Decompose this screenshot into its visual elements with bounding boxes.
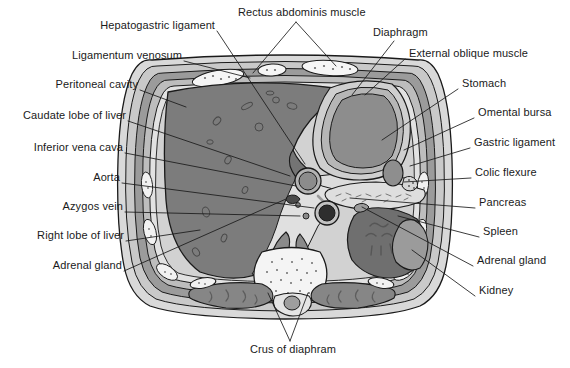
label-stomach: Stomach — [462, 77, 506, 89]
label-pancreas: Pancreas — [479, 196, 526, 208]
kidney — [392, 220, 428, 270]
label-peritoneal-cavity: Peritoneal cavity — [0, 78, 138, 90]
label-spleen: Spleen — [483, 225, 518, 237]
label-external-oblique-muscle: External oblique muscle — [409, 47, 528, 59]
aorta — [315, 201, 339, 225]
label-diaphragm: Diaphragm — [373, 26, 428, 38]
label-kidney: Kidney — [479, 284, 513, 296]
anatomy-figure: Hepatogastric ligament Ligamentum venosu… — [0, 0, 570, 368]
label-crus-of-diaphram: Crus of diaphram — [250, 343, 336, 355]
label-rectus-abdominis-muscle: Rectus abdominis muscle — [238, 6, 366, 18]
label-adrenal-gland-right: Adrenal gland — [477, 254, 546, 266]
label-aorta: Aorta — [0, 171, 120, 183]
label-right-lobe-of-liver: Right lobe of liver — [0, 229, 124, 241]
inferior-vena-cava — [295, 168, 321, 194]
label-omental-bursa: Omental bursa — [478, 106, 551, 118]
label-caudate-lobe-of-liver: Caudate lobe of liver — [0, 109, 126, 121]
label-inferior-vena-cava: Inferior vena cava — [0, 141, 123, 153]
label-hepatogastric-ligament: Hepatogastric ligament — [0, 19, 215, 31]
label-colic-flexure: Colic flexure — [475, 166, 537, 178]
label-gastric-ligament: Gastric ligament — [474, 136, 555, 148]
label-azygos-vein: Azygos vein — [0, 200, 123, 212]
label-ligamentum-venosum: Ligamentum venosum — [0, 49, 182, 61]
label-adrenal-gland-left: Adrenal gland — [0, 259, 122, 271]
